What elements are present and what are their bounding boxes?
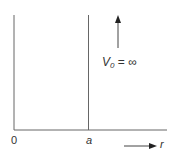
potential-symbol: V xyxy=(102,55,110,69)
potential-label: V0 = ∞ xyxy=(102,56,137,70)
potential-value: = ∞ xyxy=(114,55,136,69)
axis-label: r xyxy=(160,139,164,150)
up-arrow-icon xyxy=(115,15,121,48)
origin-label: 0 xyxy=(11,135,17,146)
potential-well-diagram xyxy=(0,0,175,155)
wall-position-label: a xyxy=(86,135,92,146)
right-arrow-icon xyxy=(124,143,157,149)
